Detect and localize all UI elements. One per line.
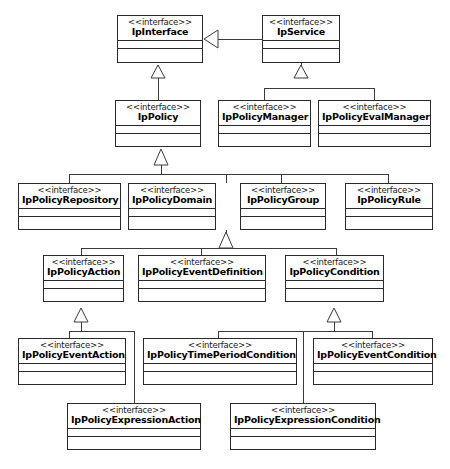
- class-name: IpPolicyExpressionAction: [71, 415, 197, 425]
- class-header: <<interface>>IpPolicyEventDefinition: [139, 256, 265, 280]
- uml-class-IpPolicyExpressionAction[interactable]: <<interface>>IpPolicyExpressionAction: [67, 403, 201, 450]
- class-attributes-compartment: [314, 363, 432, 371]
- class-operations-compartment: [241, 216, 325, 225]
- generalization-arrow-ippolicy-bottom: [154, 149, 168, 165]
- class-attributes-compartment: [44, 280, 123, 288]
- class-attributes-compartment: [286, 280, 383, 288]
- class-attributes-compartment: [68, 428, 200, 436]
- uml-class-IpPolicyTimePeriodCondition[interactable]: <<interface>>IpPolicyTimePeriodCondition: [143, 338, 297, 385]
- generalization-arrow-ippolicyaction-bottom: [74, 308, 88, 322]
- class-name: IpPolicyEventDefinition: [142, 267, 262, 277]
- generalization-arrow-ipservice-bottom: [294, 65, 308, 78]
- uml-class-IpPolicyAction[interactable]: <<interface>>IpPolicyAction: [43, 255, 124, 302]
- uml-class-IpInterface[interactable]: <<interface>>IpInterface: [117, 15, 203, 63]
- class-name: IpPolicyRepository: [22, 195, 117, 205]
- uml-class-IpPolicyRule[interactable]: <<interface>>IpPolicyRule: [345, 183, 433, 230]
- generalization-arrow-ipinterface-left: [204, 30, 218, 48]
- uml-class-IpPolicyEvalManager[interactable]: <<interface>>IpPolicyEvalManager: [318, 100, 431, 147]
- class-operations-compartment: [68, 436, 200, 445]
- class-attributes-compartment: [241, 208, 325, 216]
- generalization-arrow-ippolicydomain-bottom: [219, 232, 233, 248]
- class-attributes-compartment: [116, 125, 200, 133]
- generalization-arrow-ippolicycondition-bottom: [327, 308, 341, 322]
- class-header: <<interface>>IpPolicyEvalManager: [319, 101, 430, 125]
- class-name: IpService: [266, 27, 336, 37]
- class-name: IpPolicyEvalManager: [322, 112, 427, 122]
- class-operations-compartment: [231, 436, 375, 445]
- class-operations-compartment: [139, 288, 265, 297]
- class-attributes-compartment: [19, 208, 120, 216]
- class-header: <<interface>>IpPolicyExpressionAction: [68, 404, 200, 428]
- class-attributes-compartment: [263, 40, 339, 48]
- uml-class-IpPolicyManager[interactable]: <<interface>>IpPolicyManager: [218, 100, 311, 147]
- class-header: <<interface>>IpPolicyRepository: [19, 184, 120, 208]
- class-header: <<interface>>IpPolicyGroup: [241, 184, 325, 208]
- class-operations-compartment: [144, 371, 296, 380]
- class-name: IpPolicyTimePeriodCondition: [147, 350, 293, 360]
- class-header: <<interface>>IpPolicy: [116, 101, 200, 125]
- class-name: IpPolicyExpressionCondition: [234, 415, 372, 425]
- class-name: IpPolicy: [119, 112, 197, 122]
- class-attributes-compartment: [219, 125, 310, 133]
- uml-class-IpPolicyRepository[interactable]: <<interface>>IpPolicyRepository: [18, 183, 121, 230]
- class-header: <<interface>>IpPolicyManager: [219, 101, 310, 125]
- class-attributes-compartment: [118, 40, 202, 48]
- class-operations-compartment: [319, 133, 430, 142]
- class-name: IpInterface: [121, 27, 199, 37]
- class-operations-compartment: [219, 133, 310, 142]
- uml-class-IpPolicyEventCondition[interactable]: <<interface>>IpPolicyEventCondition: [313, 338, 433, 385]
- class-header: <<interface>>IpService: [263, 16, 339, 40]
- uml-class-IpPolicyEventDefinition[interactable]: <<interface>>IpPolicyEventDefinition: [138, 255, 266, 302]
- class-header: <<interface>>IpPolicyExpressionCondition: [231, 404, 375, 428]
- uml-class-IpPolicyGroup[interactable]: <<interface>>IpPolicyGroup: [240, 183, 326, 230]
- class-name: IpPolicyEventAction: [22, 350, 122, 360]
- class-header: <<interface>>IpInterface: [118, 16, 202, 40]
- class-operations-compartment: [118, 48, 202, 57]
- class-attributes-compartment: [129, 208, 215, 216]
- class-header: <<interface>>IpPolicyCondition: [286, 256, 383, 280]
- class-operations-compartment: [129, 216, 215, 225]
- class-name: IpPolicyEventCondition: [317, 350, 429, 360]
- class-name: IpPolicyGroup: [244, 195, 322, 205]
- class-header: <<interface>>IpPolicyEventAction: [19, 339, 125, 363]
- uml-class-IpPolicyDomain[interactable]: <<interface>>IpPolicyDomain: [128, 183, 216, 230]
- class-operations-compartment: [263, 48, 339, 57]
- class-header: <<interface>>IpPolicyRule: [346, 184, 432, 208]
- class-attributes-compartment: [19, 363, 125, 371]
- class-operations-compartment: [116, 133, 200, 142]
- class-header: <<interface>>IpPolicyDomain: [129, 184, 215, 208]
- uml-class-IpPolicy[interactable]: <<interface>>IpPolicy: [115, 100, 201, 147]
- class-attributes-compartment: [346, 208, 432, 216]
- class-header: <<interface>>IpPolicyEventCondition: [314, 339, 432, 363]
- generalization-arrow-ipinterface-bottom: [151, 65, 165, 78]
- class-name: IpPolicyRule: [349, 195, 429, 205]
- class-operations-compartment: [286, 288, 383, 297]
- class-operations-compartment: [346, 216, 432, 225]
- class-name: IpPolicyDomain: [132, 195, 212, 205]
- class-operations-compartment: [44, 288, 123, 297]
- class-name: IpPolicyCondition: [289, 267, 380, 277]
- class-name: IpPolicyAction: [47, 267, 120, 277]
- uml-class-diagram: IpInterface (horizontal generalization, …: [0, 0, 450, 469]
- class-operations-compartment: [19, 371, 125, 380]
- uml-class-IpPolicyEventAction[interactable]: <<interface>>IpPolicyEventAction: [18, 338, 126, 385]
- class-operations-compartment: [19, 216, 120, 225]
- class-attributes-compartment: [144, 363, 296, 371]
- connector-layer: IpInterface (horizontal generalization, …: [0, 0, 450, 469]
- class-attributes-compartment: [231, 428, 375, 436]
- class-name: IpPolicyManager: [222, 112, 307, 122]
- class-attributes-compartment: [139, 280, 265, 288]
- class-header: <<interface>>IpPolicyAction: [44, 256, 123, 280]
- uml-class-IpPolicyCondition[interactable]: <<interface>>IpPolicyCondition: [285, 255, 384, 302]
- uml-class-IpPolicyExpressionCondition[interactable]: <<interface>>IpPolicyExpressionCondition: [230, 403, 376, 450]
- uml-class-IpService[interactable]: <<interface>>IpService: [262, 15, 340, 63]
- class-operations-compartment: [314, 371, 432, 380]
- class-attributes-compartment: [319, 125, 430, 133]
- class-header: <<interface>>IpPolicyTimePeriodCondition: [144, 339, 296, 363]
